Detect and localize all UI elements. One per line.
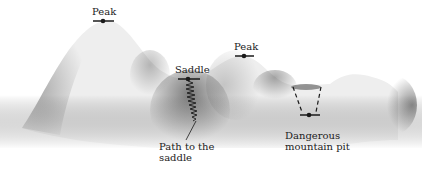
pit-opening bbox=[291, 84, 321, 90]
path-label-line-1: Path to the bbox=[159, 141, 214, 152]
dangerous-pit-label: Dangerous mountain pit bbox=[285, 130, 350, 152]
path-label-line-2: saddle bbox=[159, 152, 214, 163]
pit-label-line-2: mountain pit bbox=[285, 141, 350, 152]
path-to-saddle-label: Path to the saddle bbox=[159, 141, 214, 163]
peak-2-label: Peak bbox=[234, 41, 258, 52]
saddle-label: Saddle bbox=[175, 64, 210, 75]
pit-label-line-1: Dangerous bbox=[285, 130, 350, 141]
peak-1-label: Peak bbox=[92, 6, 116, 17]
